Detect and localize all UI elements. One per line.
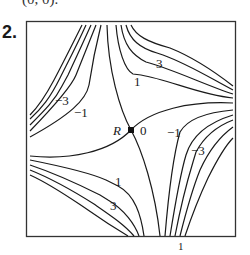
zero-label: 0 — [140, 123, 147, 138]
contour-label: −3 — [191, 143, 205, 158]
contour-label: −1 — [74, 105, 88, 120]
page-marker: 1 — [178, 240, 184, 252]
contour-label: −1 — [167, 125, 181, 140]
saddle-point-marker — [128, 127, 134, 133]
contour-label: 1 — [115, 174, 122, 189]
contour-label: 3 — [110, 198, 117, 213]
contour-label: 1 — [134, 74, 141, 89]
contour-labels: R 0 3 1 −3 −1 −1 −3 1 3 — [55, 56, 205, 213]
contour-plot: R 0 3 1 −3 −1 −1 −3 1 3 — [0, 0, 250, 255]
saddle-label: R — [112, 123, 121, 138]
contour-label: −3 — [55, 93, 69, 108]
contour-label: 3 — [156, 56, 163, 71]
